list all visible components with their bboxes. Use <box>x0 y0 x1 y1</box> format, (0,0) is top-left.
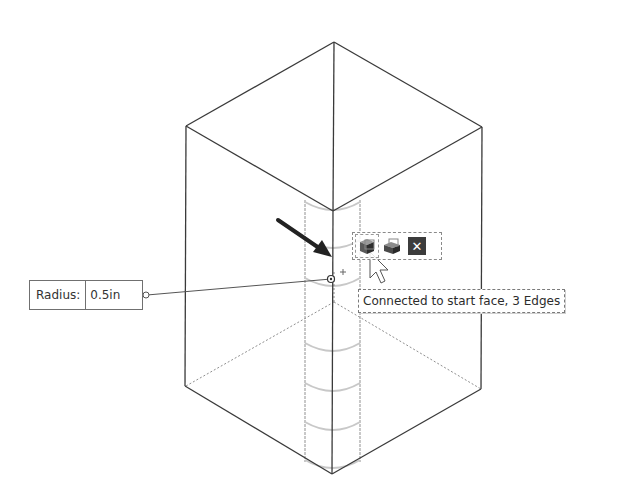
radius-value-field[interactable]: 0.5in <box>86 281 142 309</box>
radius-label: Radius: <box>30 281 86 309</box>
radius-input-box[interactable]: Radius: 0.5in <box>29 280 143 310</box>
close-button[interactable]: ✕ <box>407 236 427 256</box>
leader-end-handle[interactable] <box>143 292 149 298</box>
3d-viewport[interactable] <box>0 0 639 504</box>
context-toolbar: ✕ <box>352 232 442 260</box>
extrude-button[interactable] <box>382 236 402 256</box>
connection-tooltip: Connected to start face, 3 Edges <box>358 289 565 313</box>
face-select-icon <box>358 237 376 255</box>
close-icon: ✕ <box>408 237 426 255</box>
radius-leader-line <box>147 279 331 295</box>
crosshair-icon <box>340 269 346 275</box>
extrude-box-icon <box>383 237 401 255</box>
start-face-button[interactable] <box>357 236 377 256</box>
